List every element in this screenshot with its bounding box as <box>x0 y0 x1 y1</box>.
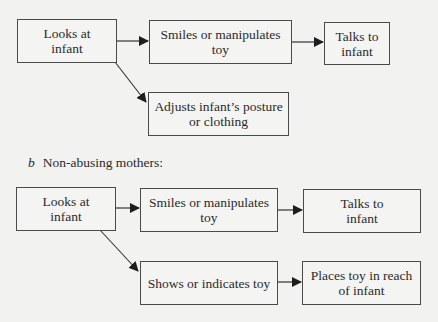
node-shows-or-indicates-toy: Shows or indicates toy <box>140 261 278 305</box>
node-label: Talks to infant <box>330 29 385 59</box>
section-b-heading: bNon-abusing mothers: <box>28 155 163 171</box>
node-smiles-or-manipulates-toy: Smiles or manipulates toy <box>140 188 278 232</box>
node-label: Talks to infant <box>335 196 390 226</box>
node-label: Looks at infant <box>36 26 98 56</box>
arrow-b1-to-b4 <box>100 230 138 271</box>
node-label: Places toy in reach of infant <box>307 268 416 298</box>
node-talks-to-infant: Talks to infant <box>324 22 390 65</box>
node-looks-at-infant: Looks at infant <box>17 19 117 63</box>
section-title: Non-abusing mothers: <box>43 155 163 170</box>
node-label: Looks at infant <box>35 194 97 224</box>
node-label: Adjusts infant’s posture or clothing <box>154 99 284 129</box>
node-label: Shows or indicates toy <box>145 276 273 291</box>
node-label: Smiles or manipulates toy <box>160 27 282 57</box>
section-letter: b <box>28 155 35 170</box>
node-smiles-or-manipulates-toy: Smiles or manipulates toy <box>149 20 292 64</box>
node-adjusts-posture-or-clothing: Adjusts infant’s posture or clothing <box>148 92 289 136</box>
node-label: Smiles or manipulates toy <box>148 195 270 225</box>
arrow-a1-to-a4 <box>115 62 146 102</box>
node-talks-to-infant: Talks to infant <box>303 189 421 233</box>
node-places-toy-in-reach: Places toy in reach of infant <box>302 261 421 305</box>
node-looks-at-infant: Looks at infant <box>16 187 116 231</box>
